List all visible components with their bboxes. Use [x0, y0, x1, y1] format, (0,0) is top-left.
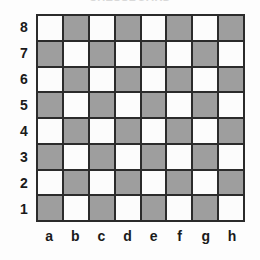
- board-square-f8[interactable]: [167, 16, 191, 40]
- board-square-a2[interactable]: [38, 171, 62, 195]
- board-square-e6[interactable]: [142, 68, 166, 92]
- board-square-h6[interactable]: [219, 68, 243, 92]
- board-square-g1[interactable]: [193, 196, 217, 220]
- board-square-c8[interactable]: [90, 16, 114, 40]
- board-square-e1[interactable]: [142, 196, 166, 220]
- file-label-h: h: [219, 226, 245, 246]
- board-square-b5[interactable]: [64, 93, 88, 117]
- board-square-c4[interactable]: [90, 119, 114, 143]
- board-square-f3[interactable]: [167, 145, 191, 169]
- board-square-d4[interactable]: [116, 119, 140, 143]
- rank-label-4: 4: [14, 118, 34, 144]
- board-square-g3[interactable]: [193, 145, 217, 169]
- board-square-c3[interactable]: [90, 145, 114, 169]
- board-square-h1[interactable]: [219, 196, 243, 220]
- board-container: [36, 14, 245, 222]
- board-square-a5[interactable]: [38, 93, 62, 117]
- board-square-b8[interactable]: [64, 16, 88, 40]
- board-square-e7[interactable]: [142, 42, 166, 66]
- rank-label-3: 3: [14, 144, 34, 170]
- board-square-e2[interactable]: [142, 171, 166, 195]
- board-square-h2[interactable]: [219, 171, 243, 195]
- board-square-h3[interactable]: [219, 145, 243, 169]
- board-square-f7[interactable]: [167, 42, 191, 66]
- file-label-d: d: [114, 226, 140, 246]
- board-square-d2[interactable]: [116, 171, 140, 195]
- board-square-d3[interactable]: [116, 145, 140, 169]
- file-label-f: f: [167, 226, 193, 246]
- board-square-b2[interactable]: [64, 171, 88, 195]
- board-square-d6[interactable]: [116, 68, 140, 92]
- board-square-c1[interactable]: [90, 196, 114, 220]
- file-label-a: a: [36, 226, 62, 246]
- board-square-h5[interactable]: [219, 93, 243, 117]
- board-square-b3[interactable]: [64, 145, 88, 169]
- board-square-g8[interactable]: [193, 16, 217, 40]
- board-square-b4[interactable]: [64, 119, 88, 143]
- board-square-c5[interactable]: [90, 93, 114, 117]
- board-square-d7[interactable]: [116, 42, 140, 66]
- chessboard-diagram: CHESSBOARD 87654321 abcdefgh: [0, 0, 260, 260]
- diagram-title-clipped: CHESSBOARD: [0, 0, 260, 5]
- board-square-d5[interactable]: [116, 93, 140, 117]
- board-square-h8[interactable]: [219, 16, 243, 40]
- board-square-b1[interactable]: [64, 196, 88, 220]
- board-square-b7[interactable]: [64, 42, 88, 66]
- board-square-a7[interactable]: [38, 42, 62, 66]
- board-square-e5[interactable]: [142, 93, 166, 117]
- board-square-f5[interactable]: [167, 93, 191, 117]
- board-square-c7[interactable]: [90, 42, 114, 66]
- board-square-e8[interactable]: [142, 16, 166, 40]
- file-label-e: e: [141, 226, 167, 246]
- board-square-f2[interactable]: [167, 171, 191, 195]
- chessboard-grid: [36, 14, 245, 222]
- board-square-c2[interactable]: [90, 171, 114, 195]
- board-square-f6[interactable]: [167, 68, 191, 92]
- board-square-g5[interactable]: [193, 93, 217, 117]
- board-square-a4[interactable]: [38, 119, 62, 143]
- file-label-row: abcdefgh: [36, 226, 245, 246]
- file-label-g: g: [193, 226, 219, 246]
- board-square-a1[interactable]: [38, 196, 62, 220]
- file-label-c: c: [88, 226, 114, 246]
- board-square-a3[interactable]: [38, 145, 62, 169]
- board-square-f4[interactable]: [167, 119, 191, 143]
- board-square-d1[interactable]: [116, 196, 140, 220]
- board-square-a8[interactable]: [38, 16, 62, 40]
- board-square-g6[interactable]: [193, 68, 217, 92]
- board-square-a6[interactable]: [38, 68, 62, 92]
- file-label-b: b: [62, 226, 88, 246]
- board-square-d8[interactable]: [116, 16, 140, 40]
- board-square-g4[interactable]: [193, 119, 217, 143]
- rank-label-8: 8: [14, 14, 34, 40]
- rank-label-6: 6: [14, 66, 34, 92]
- rank-label-column: 87654321: [14, 14, 34, 222]
- rank-label-2: 2: [14, 170, 34, 196]
- board-square-g2[interactable]: [193, 171, 217, 195]
- rank-label-7: 7: [14, 40, 34, 66]
- diagram-title-text: CHESSBOARD: [89, 0, 171, 3]
- board-square-h7[interactable]: [219, 42, 243, 66]
- rank-label-1: 1: [14, 196, 34, 222]
- board-square-f1[interactable]: [167, 196, 191, 220]
- board-square-e3[interactable]: [142, 145, 166, 169]
- board-square-e4[interactable]: [142, 119, 166, 143]
- board-square-h4[interactable]: [219, 119, 243, 143]
- board-square-c6[interactable]: [90, 68, 114, 92]
- board-square-g7[interactable]: [193, 42, 217, 66]
- board-square-b6[interactable]: [64, 68, 88, 92]
- rank-label-5: 5: [14, 92, 34, 118]
